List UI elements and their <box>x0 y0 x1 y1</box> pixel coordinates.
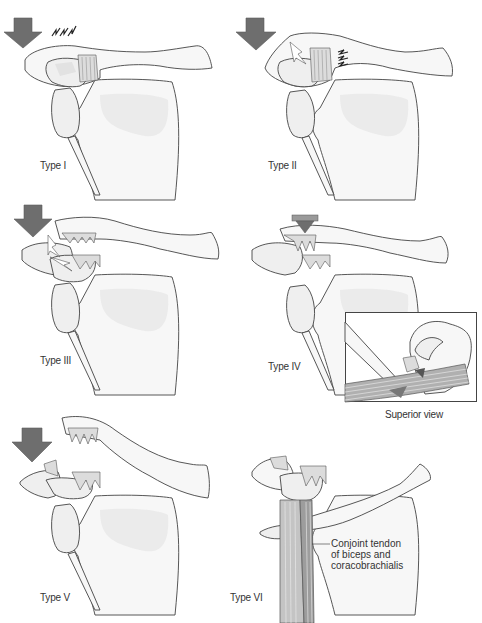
callout-line-3: coracobrachialis <box>331 560 403 571</box>
panel-type-5: Type V <box>0 410 241 623</box>
conjoint-tendon-callout: Conjoint tendon of biceps and coracobrac… <box>331 538 403 571</box>
panel-type-2: Type II <box>230 0 482 200</box>
shoulder-illustration-type-1 <box>0 0 241 200</box>
superior-view-illustration <box>345 312 477 402</box>
panel-label: Type I <box>40 160 66 171</box>
force-arrow-icon <box>12 428 52 462</box>
panel-label: Type VI <box>230 592 263 603</box>
callout-line-1: Conjoint tendon <box>331 538 403 549</box>
panel-type-3: Type III <box>0 195 241 405</box>
panel-label: Type V <box>40 592 70 603</box>
superior-view-inset <box>345 312 477 402</box>
shoulder-illustration-type-6 <box>230 410 482 623</box>
force-arrow-icon <box>4 18 42 48</box>
shoulder-illustration-type-3 <box>0 195 241 405</box>
panel-label: Type III <box>40 355 71 366</box>
conjoint-tendon <box>280 500 314 623</box>
panel-type-4: Type IV Superior view <box>230 195 482 405</box>
panel-label: Type IV <box>268 361 301 372</box>
shoulder-illustration-type-5 <box>0 410 241 623</box>
sprain-marks-icon <box>52 26 76 36</box>
force-arrow-icon <box>236 18 276 50</box>
panel-type-6: Type VI Conjoint tendon of biceps and co… <box>230 410 482 623</box>
force-arrow-icon <box>14 205 52 237</box>
panel-type-1: Type I <box>0 0 241 200</box>
callout-line-2: of biceps and <box>331 549 403 560</box>
panel-label: Type II <box>268 160 297 171</box>
